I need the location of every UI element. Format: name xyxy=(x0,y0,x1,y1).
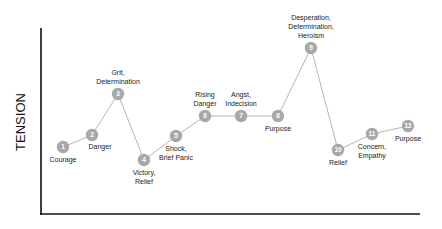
point-label: Determination, xyxy=(288,23,334,30)
point-number: 5 xyxy=(174,132,178,139)
point-label: Shock, xyxy=(165,145,186,152)
point-number: 7 xyxy=(239,112,243,119)
point-label: Courage xyxy=(50,156,77,164)
point-label: Desperation, xyxy=(291,14,331,22)
point-label: Danger xyxy=(89,143,113,151)
point-number: 4 xyxy=(142,156,146,163)
point-8: 8Purpose xyxy=(265,110,291,133)
point-number: 3 xyxy=(116,90,120,97)
point-number: 12 xyxy=(404,122,412,129)
point-label: Victory, xyxy=(133,169,156,177)
tension-points: 1Courage2Danger3Grit,Determination4Victo… xyxy=(50,14,422,185)
point-label: Rising xyxy=(195,91,215,99)
point-number: 1 xyxy=(61,143,65,150)
y-axis-label: TENSION xyxy=(13,93,28,151)
point-label: Relief xyxy=(329,159,347,166)
point-label: Concern, xyxy=(358,143,386,150)
point-4: 4Victory,Relief xyxy=(133,154,156,185)
point-number: 6 xyxy=(203,112,207,119)
point-6: 6RisingDanger xyxy=(194,91,218,122)
point-label: Heroism xyxy=(298,32,324,39)
point-3: 3Grit,Determination xyxy=(96,69,140,100)
tension-chart: TENSION 1Courage2Danger3Grit,Determinati… xyxy=(0,0,442,229)
point-11: 11Concern,Empathy xyxy=(358,128,387,160)
point-label: Purpose xyxy=(265,125,291,133)
point-9: 9Desperation,Determination,Heroism xyxy=(288,14,334,54)
point-label: Indecision xyxy=(225,100,257,107)
point-2: 2Danger xyxy=(86,129,112,151)
point-number: 9 xyxy=(309,44,313,51)
point-12: 12Purpose xyxy=(395,120,421,143)
point-label: Brief Panic xyxy=(159,154,193,161)
point-number: 11 xyxy=(369,130,376,137)
point-label: Danger xyxy=(194,100,218,108)
point-number: 8 xyxy=(276,112,280,119)
point-1: 1Courage xyxy=(50,141,77,164)
point-label: Relief xyxy=(135,178,153,185)
point-label: Purpose xyxy=(395,135,421,143)
point-number: 2 xyxy=(90,131,94,138)
point-label: Determination xyxy=(96,78,140,85)
point-7: 7Angst,Indecision xyxy=(225,91,257,122)
point-label: Grit, xyxy=(111,69,124,76)
point-label: Empathy xyxy=(358,152,386,160)
point-number: 10 xyxy=(334,146,342,153)
point-label: Angst, xyxy=(231,91,251,99)
